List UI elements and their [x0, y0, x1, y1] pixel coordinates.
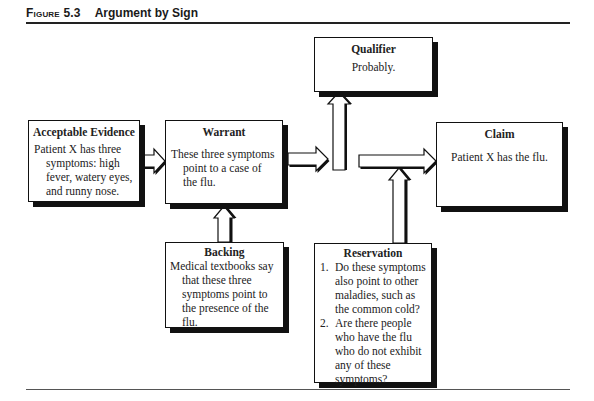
- arrow-to-qualifier: [328, 92, 352, 170]
- reservation-title: Reservation: [315, 246, 431, 260]
- reservation-item: 1. Do these symptoms also point to other…: [315, 260, 428, 316]
- bottom-rule: [26, 389, 570, 390]
- arrow-backing-up: [214, 206, 237, 242]
- warrant-text: These three symptoms point to a case of …: [166, 147, 282, 189]
- qualifier-text: Probably.: [315, 60, 432, 74]
- reservation-box: Reservation 1. Do these symptoms also po…: [314, 243, 432, 383]
- qualifier-box: Qualifier Probably.: [314, 37, 433, 92]
- arrow-reservation-up: [389, 168, 412, 243]
- figure-label: Figure 5.3: [26, 6, 81, 20]
- backing-box: Backing Medical textbooks say that these…: [165, 242, 284, 328]
- figure-title: Argument by Sign: [95, 6, 198, 20]
- claim-box: Claim Patient X has the flu.: [436, 122, 563, 207]
- figure-caption: Figure 5.3Argument by Sign: [26, 6, 198, 20]
- top-rule: [26, 22, 570, 24]
- evidence-box: Acceptable Evidence Patient X has three …: [28, 120, 140, 202]
- reservation-item: 2. Are there people who have the flu who…: [315, 316, 428, 386]
- claim-title: Claim: [437, 127, 562, 141]
- arrow-warrant-right: [288, 147, 330, 173]
- qualifier-title: Qualifier: [315, 42, 432, 56]
- arrow-to-claim: [359, 149, 438, 175]
- warrant-title: Warrant: [166, 125, 282, 139]
- arrow-evidence-to-warrant: [142, 149, 167, 175]
- warrant-box: Warrant These three symptoms point to a …: [165, 120, 283, 204]
- evidence-text: Patient X has three symptoms: high fever…: [29, 142, 139, 198]
- claim-text: Patient X has the flu.: [437, 150, 562, 164]
- reservation-list: 1. Do these symptoms also point to other…: [315, 260, 431, 386]
- evidence-title: Acceptable Evidence: [29, 125, 139, 139]
- backing-title: Backing: [166, 245, 283, 259]
- backing-text: Medical textbooks say that these three s…: [166, 259, 283, 329]
